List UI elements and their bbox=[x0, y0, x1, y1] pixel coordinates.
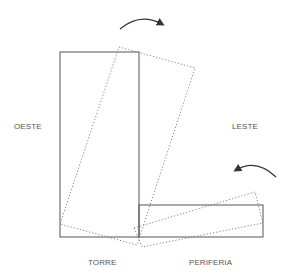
periphery-rotated-outline bbox=[134, 192, 263, 247]
label-periphery: PERIFERIA bbox=[189, 258, 232, 267]
counter-clockwise-arrow-icon bbox=[236, 165, 276, 177]
tower-rotated-outline bbox=[60, 47, 195, 245]
periphery-block bbox=[139, 205, 263, 237]
tower-block bbox=[60, 52, 139, 237]
clockwise-arrow-icon bbox=[120, 19, 162, 29]
label-east: LESTE bbox=[232, 122, 258, 131]
label-west: OESTE bbox=[14, 122, 42, 131]
diagram-canvas bbox=[0, 0, 291, 280]
label-tower: TORRE bbox=[88, 258, 116, 267]
